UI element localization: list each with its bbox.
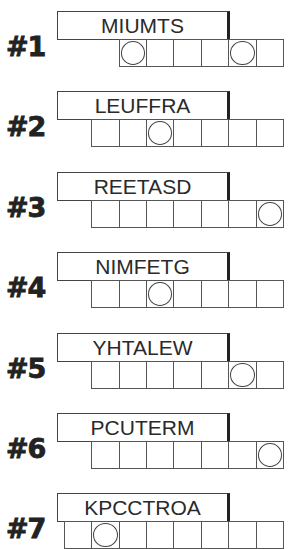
scrambled-word: LEUFFRA — [57, 91, 230, 120]
letter-box[interactable] — [228, 521, 256, 549]
letter-box[interactable] — [146, 200, 174, 228]
puzzle-7: #7 KPCCTROA — [0, 493, 298, 549]
letter-box[interactable] — [173, 441, 201, 469]
letter-box[interactable] — [173, 200, 201, 228]
scrambled-word: NIMFETG — [57, 252, 230, 281]
puzzle-6: #6 PCUTERM — [0, 413, 298, 493]
letter-box[interactable] — [146, 39, 174, 67]
puzzle-4: #4 NIMFETG — [0, 252, 298, 332]
letter-box[interactable] — [91, 119, 119, 147]
letter-box[interactable] — [119, 119, 147, 147]
letter-box[interactable] — [119, 441, 147, 469]
scrambled-word: MIUMTS — [57, 11, 230, 40]
letter-box[interactable] — [173, 361, 201, 389]
letter-box[interactable] — [91, 200, 119, 228]
puzzle-number: #2 — [6, 111, 45, 142]
puzzle-number: #6 — [6, 433, 45, 464]
circled-letter-box[interactable] — [146, 119, 174, 147]
letter-box[interactable] — [256, 521, 284, 549]
letter-box[interactable] — [201, 39, 229, 67]
circled-letter-box[interactable] — [228, 39, 256, 67]
letter-box[interactable] — [119, 280, 147, 308]
letter-box[interactable] — [201, 361, 229, 389]
letter-box[interactable] — [256, 361, 284, 389]
answer-boxes[interactable] — [92, 441, 284, 469]
answer-boxes[interactable] — [65, 521, 284, 549]
letter-box[interactable] — [173, 280, 201, 308]
letter-box[interactable] — [146, 521, 174, 549]
letter-box[interactable] — [119, 521, 147, 549]
letter-box[interactable] — [173, 119, 201, 147]
letter-box[interactable] — [91, 441, 119, 469]
scrambled-word: REETASD — [57, 172, 230, 201]
puzzle-number: #3 — [6, 192, 45, 223]
circled-letter-box[interactable] — [256, 200, 284, 228]
letter-box[interactable] — [91, 280, 119, 308]
letter-box[interactable] — [201, 280, 229, 308]
answer-boxes[interactable] — [92, 361, 284, 389]
letter-box[interactable] — [228, 280, 256, 308]
letter-box[interactable] — [201, 441, 229, 469]
letter-box[interactable] — [173, 521, 201, 549]
letter-box[interactable] — [201, 521, 229, 549]
letter-box[interactable] — [256, 39, 284, 67]
puzzle-number: #5 — [6, 353, 45, 384]
puzzle-5: #5 YHTALEW — [0, 333, 298, 413]
answer-boxes[interactable] — [92, 119, 284, 147]
letter-box[interactable] — [228, 200, 256, 228]
puzzle-3: #3 REETASD — [0, 172, 298, 252]
circled-letter-box[interactable] — [146, 280, 174, 308]
letter-box[interactable] — [146, 441, 174, 469]
letter-box[interactable] — [201, 119, 229, 147]
answer-boxes[interactable] — [120, 39, 284, 67]
letter-box[interactable] — [228, 441, 256, 469]
puzzle-2: #2 LEUFFRA — [0, 91, 298, 171]
scrambled-word: KPCCTROA — [57, 493, 230, 522]
letter-box[interactable] — [173, 39, 201, 67]
letter-box[interactable] — [119, 200, 147, 228]
puzzle-number: #1 — [6, 31, 45, 62]
circled-letter-box[interactable] — [119, 39, 147, 67]
scrambled-word: PCUTERM — [57, 413, 230, 442]
puzzle-1: #1 MIUMTS — [0, 11, 298, 91]
letter-box[interactable] — [64, 521, 92, 549]
letter-box[interactable] — [256, 280, 284, 308]
circled-letter-box[interactable] — [256, 441, 284, 469]
letter-box[interactable] — [146, 361, 174, 389]
letter-box[interactable] — [256, 119, 284, 147]
letter-box[interactable] — [91, 361, 119, 389]
answer-boxes[interactable] — [92, 280, 284, 308]
circled-letter-box[interactable] — [228, 361, 256, 389]
letter-box[interactable] — [119, 361, 147, 389]
letter-box[interactable] — [228, 119, 256, 147]
puzzle-number: #7 — [6, 513, 45, 544]
letter-box[interactable] — [201, 200, 229, 228]
puzzle-number: #4 — [6, 272, 45, 303]
answer-boxes[interactable] — [92, 200, 284, 228]
circled-letter-box[interactable] — [91, 521, 119, 549]
scrambled-word: YHTALEW — [57, 333, 230, 362]
